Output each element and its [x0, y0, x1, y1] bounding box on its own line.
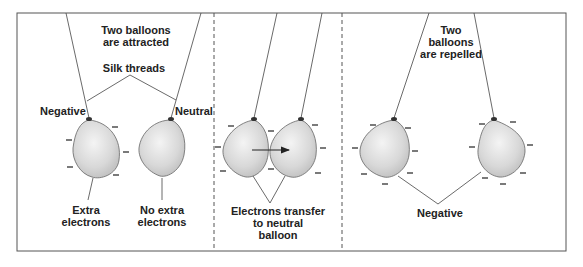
title-repelled: Two balloons are repelled: [420, 24, 482, 60]
caption-line2: to neutral: [220, 217, 336, 229]
title-repelled-line2: balloons: [420, 36, 482, 48]
title-attracted: Two balloons are attracted: [96, 24, 176, 48]
label-negative-left: Negative: [40, 105, 86, 117]
balloon-right-2: [270, 117, 316, 177]
balloon-neutral-1: [139, 117, 185, 176]
extra-electrons-line2: electrons: [58, 216, 114, 228]
caption-line3: balloon: [220, 229, 336, 241]
label-negative-bottom: Negative: [410, 207, 470, 219]
title-repelled-line3: are repelled: [420, 48, 482, 60]
title-attracted-line2: are attracted: [96, 36, 176, 48]
label-extra-electrons: Extra electrons: [58, 204, 114, 228]
caption-electron-transfer: Electrons transfer to neutral balloon: [220, 205, 336, 241]
label-silk-threads: Silk threads: [96, 62, 172, 74]
extra-electrons-line1: Extra: [58, 204, 114, 216]
label-no-extra-electrons: No extra electrons: [134, 204, 190, 228]
balloon-negative-1: [73, 117, 120, 178]
title-attracted-line1: Two balloons: [96, 24, 176, 36]
balloon-left-3: [360, 117, 409, 177]
title-repelled-line1: Two: [420, 24, 482, 36]
no-extra-electrons-line1: No extra: [134, 204, 190, 216]
label-neutral: Neutral: [175, 105, 213, 117]
caption-line1: Electrons transfer: [220, 205, 336, 217]
no-extra-electrons-line2: electrons: [134, 216, 190, 228]
balloon-right-3: [478, 117, 525, 177]
